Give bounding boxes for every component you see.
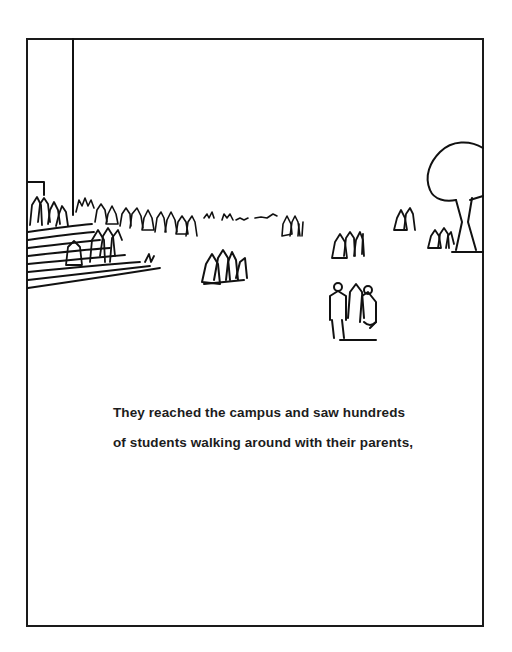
tree [428, 142, 483, 252]
student-group-right [394, 208, 454, 248]
student-group-foreground [330, 283, 376, 340]
caption-line-1: They reached the campus and saw hundreds [113, 398, 473, 428]
story-caption: They reached the campus and saw hundreds… [113, 398, 473, 458]
student-group-center-left [202, 250, 247, 284]
building-ledge [28, 182, 44, 195]
caption-line-2: of students walking around with their pa… [113, 428, 473, 458]
campus-steps [28, 224, 160, 288]
campus-illustration [0, 0, 512, 652]
student-group-center [332, 232, 364, 258]
